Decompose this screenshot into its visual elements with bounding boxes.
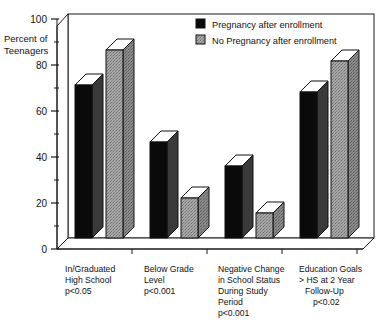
bar-series1-cat4 (300, 81, 328, 238)
bar-series1-cat3 (225, 155, 253, 238)
category-1-line-3: p<0.05 (65, 286, 92, 296)
category-2-line-3: p<0.001 (144, 286, 176, 296)
category-4-line-3: Follow-Up (305, 286, 344, 296)
bar-series1-cat2 (150, 131, 178, 238)
category-1-line-1: In/Graduated (65, 264, 115, 274)
chart-svg: 100 80 60 40 20 0 Percent of Teenagers (0, 0, 388, 323)
y-tick-label-0: 0 (41, 244, 47, 255)
legend-label-1: Pregnancy after enrollment (212, 20, 323, 30)
category-3-line-1: Negative Change (218, 264, 285, 274)
legend-swatch-gray-square-icon (196, 35, 205, 44)
category-4-line-2: > HS at 2 Year (299, 275, 355, 285)
category-label-4: Education Goals > HS at 2 Year Follow-Up… (299, 264, 362, 307)
bar-chart-figure: 100 80 60 40 20 0 Percent of Teenagers (0, 0, 388, 323)
y-tick-label-20: 20 (36, 198, 48, 209)
y-axis-title: Percent of Teenagers (4, 33, 49, 56)
category-label-1: In/Graduated High School p<0.05 (65, 264, 115, 296)
y-axis-title-line-1: Percent of (4, 33, 48, 44)
category-2-line-1: Below Grade (144, 264, 194, 274)
y-tick-label-40: 40 (36, 152, 48, 163)
bar-series1-cat1 (75, 74, 103, 238)
legend-swatch-black-square-icon (196, 19, 205, 28)
category-1-line-2: High School (65, 275, 111, 285)
category-3-line-5: p<0.001 (218, 308, 250, 318)
category-3-line-4: Period (218, 297, 243, 307)
legend-label-2: No Pregnancy after enrollment (212, 36, 337, 46)
category-label-2: Below Grade Level p<0.001 (144, 264, 194, 296)
bar-series2-cat2 (181, 187, 209, 238)
x-axis (57, 249, 363, 254)
category-3-line-3: During Study (218, 286, 268, 296)
bar-series2-cat4 (331, 50, 359, 238)
y-axis-title-line-2: Teenagers (4, 45, 49, 56)
category-4-line-1: Education Goals (299, 264, 362, 274)
category-label-3: Negative Change in School Status During … (218, 264, 285, 318)
y-tick-label-80: 80 (36, 60, 48, 71)
category-2-line-2: Level (144, 275, 165, 285)
y-tick-label-100: 100 (30, 14, 47, 25)
bar-series2-cat1 (106, 39, 134, 238)
category-4-line-4: p<0.02 (313, 297, 340, 307)
y-tick-label-60: 60 (36, 106, 48, 117)
category-3-line-2: in School Status (218, 275, 280, 285)
